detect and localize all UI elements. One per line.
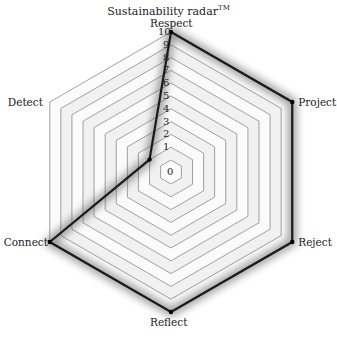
- tick-label: 1: [163, 141, 169, 152]
- tick-label: 2: [163, 128, 169, 139]
- tick-label: 4: [163, 103, 169, 114]
- data-point: [48, 240, 52, 244]
- tick-label: 8: [163, 52, 169, 63]
- data-point: [147, 157, 151, 161]
- data-point: [290, 240, 294, 244]
- axis-label-project: Project: [298, 96, 336, 108]
- tick-label: 7: [163, 64, 169, 75]
- tick-label: 3: [163, 116, 169, 127]
- axis-label-connect: Connect: [4, 236, 48, 248]
- tick-label: 6: [163, 77, 169, 88]
- tick-label: 5: [163, 90, 169, 101]
- data-point: [290, 100, 294, 104]
- tick-label: 10: [158, 26, 171, 37]
- data-point: [169, 310, 173, 314]
- axis-label-respect: Respect: [150, 17, 193, 29]
- axis-label-reflect: Reflect: [150, 316, 187, 328]
- tick-label: 9: [163, 39, 169, 50]
- axis-label-detect: Detect: [8, 96, 43, 108]
- tick-label: 0: [167, 166, 173, 177]
- axis-label-reject: Reject: [298, 236, 332, 248]
